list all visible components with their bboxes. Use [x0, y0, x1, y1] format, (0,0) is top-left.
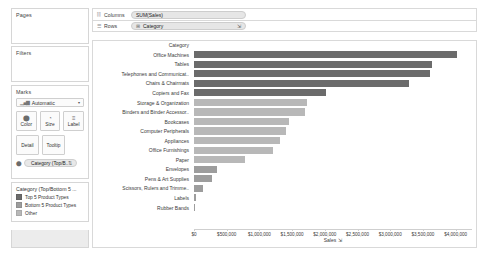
chart-row: Paper [93, 155, 476, 165]
detail-button[interactable]: Detail [16, 135, 39, 155]
mark-type-label: Automatic [32, 100, 78, 106]
bar[interactable] [194, 194, 196, 201]
bar-track [194, 69, 476, 79]
category-label[interactable]: Bookcases [93, 119, 194, 125]
filters-title: Filters [12, 47, 88, 56]
bar[interactable] [194, 99, 307, 106]
tooltip-button[interactable]: Tooltip [42, 135, 65, 155]
bar-track [194, 184, 476, 194]
mark-type-selector[interactable]: ▁▄▆ Automatic ▾ [16, 98, 84, 107]
tooltip-button-label: Tooltip [47, 143, 61, 148]
bar[interactable] [194, 127, 286, 134]
pages-panel[interactable]: Pages [11, 8, 89, 44]
x-axis: $0$500,000$1,000,000$1,500,000$2,000,000… [194, 229, 472, 230]
category-label[interactable]: Pens & Art Supplies [93, 176, 194, 182]
legend-item[interactable]: Bottom 5 Product Types [12, 201, 88, 209]
columns-pill-sum-sales[interactable]: SUM(Sales) [131, 11, 246, 19]
bar-track [194, 174, 476, 184]
bar-track [194, 193, 476, 203]
chart-row: Binders and Binder Accessor.. [93, 107, 476, 117]
tableau-worksheet: Pages Filters Marks ▁▄▆ Automatic ▾ ⬤ Co… [0, 0, 488, 262]
rows-pill-category[interactable]: ⊞ Category ⇲ [131, 22, 246, 30]
chart-row: Telephones and Communicat.. [93, 69, 476, 79]
size-button[interactable]: ◔ Size [40, 111, 61, 131]
plus-icon[interactable]: ⊞ [136, 24, 140, 29]
sidebar-footer [11, 230, 89, 248]
bar[interactable] [194, 204, 195, 211]
category-label[interactable]: Paper [93, 157, 194, 163]
category-label[interactable]: Office Machines [93, 52, 194, 58]
chart-row: Copiers and Fax [93, 88, 476, 98]
bar-mark-icon: ▁▄▆ [20, 100, 30, 105]
bar[interactable] [194, 156, 245, 163]
chart-card: Category Office MachinesTablesTelephones… [92, 40, 477, 248]
bar[interactable] [194, 185, 203, 192]
axis-tick [227, 229, 228, 231]
columns-shelf[interactable]: ⫿⫿ Columns SUM(Sales) [92, 8, 477, 20]
category-label[interactable]: Storage & Organization [93, 100, 194, 106]
axis-tick [423, 229, 424, 231]
bar[interactable] [194, 51, 457, 58]
chart-inner: Category Office MachinesTablesTelephones… [93, 41, 476, 247]
legend-item[interactable]: Other [12, 209, 88, 217]
category-label[interactable]: Tables [93, 61, 194, 67]
category-label[interactable]: Envelopes [93, 166, 194, 172]
bar-track [194, 203, 476, 213]
bar-track [194, 126, 476, 136]
chart-row: Chairs & Chairmats [93, 79, 476, 89]
chart-row: Tables [93, 60, 476, 70]
chevron-down-icon[interactable]: ▾ [78, 100, 80, 105]
plot-area: Office MachinesTablesTelephones and Comm… [93, 50, 476, 247]
rows-shelf-label: Rows [104, 23, 131, 29]
bar[interactable] [194, 80, 409, 87]
legend-item-label: Bottom 5 Product Types [25, 203, 76, 208]
category-label[interactable]: Appliances [93, 138, 194, 144]
bar[interactable] [194, 108, 305, 115]
legend-item[interactable]: Top 5 Product Types [12, 193, 88, 201]
bar-track [194, 165, 476, 175]
legend-title: Category (Top/Bottom 5 ... [12, 183, 88, 193]
bar[interactable] [194, 147, 273, 154]
label-icon: ≡ [72, 115, 76, 121]
legend-item-label: Top 5 Product Types [25, 195, 69, 200]
sort-icon[interactable]: ⇲ [237, 23, 241, 29]
category-label[interactable]: Copiers and Fax [93, 90, 194, 96]
sidebar: Pages Filters Marks ▁▄▆ Automatic ▾ ⬤ Co… [11, 8, 89, 248]
filters-panel[interactable]: Filters [11, 46, 89, 82]
shelf-area: ⫿⫿ Columns SUM(Sales) ☰ Rows ⊞ Category … [92, 8, 477, 32]
bar[interactable] [194, 118, 289, 125]
bar-track [194, 88, 476, 98]
category-label[interactable]: Labels [93, 195, 194, 201]
bar[interactable] [194, 89, 326, 96]
chart-row: Office Furnishings [93, 145, 476, 155]
color-legend: Category (Top/Bottom 5 ... Top 5 Product… [11, 182, 89, 222]
bar[interactable] [194, 166, 217, 173]
category-label[interactable]: Rubber Bands [93, 205, 194, 211]
bar-track [194, 155, 476, 165]
bar[interactable] [194, 175, 212, 182]
category-label[interactable]: Scissors, Rulers and Trimme.. [93, 185, 194, 191]
axis-tick [325, 229, 326, 231]
chart-row: Rubber Bands [93, 203, 476, 213]
marks-color-pill[interactable]: Category (Top/B.. ⇅ [24, 159, 77, 167]
label-button[interactable]: ≡ Label [63, 111, 84, 131]
sort-icon[interactable]: ⇲ [338, 237, 342, 243]
bar[interactable] [194, 70, 430, 77]
bar-track [194, 98, 476, 108]
category-label[interactable]: Computer Peripherals [93, 128, 194, 134]
category-label[interactable]: Chairs & Chairmats [93, 80, 194, 86]
category-label[interactable]: Binders and Binder Accessor.. [93, 109, 194, 115]
bar[interactable] [194, 61, 432, 68]
chart-row: Envelopes [93, 165, 476, 175]
axis-tick [259, 229, 260, 231]
color-button[interactable]: ⬤ Color [16, 111, 37, 131]
category-label[interactable]: Office Furnishings [93, 147, 194, 153]
sort-icon[interactable]: ⇅ [68, 161, 72, 166]
bar-track [194, 145, 476, 155]
rows-shelf[interactable]: ☰ Rows ⊞ Category ⇲ [92, 20, 477, 32]
bar-track [194, 79, 476, 89]
category-label[interactable]: Telephones and Communicat.. [93, 71, 194, 77]
bar[interactable] [194, 137, 280, 144]
rows-pill-label: Category [143, 23, 163, 29]
axis-tick [292, 229, 293, 231]
